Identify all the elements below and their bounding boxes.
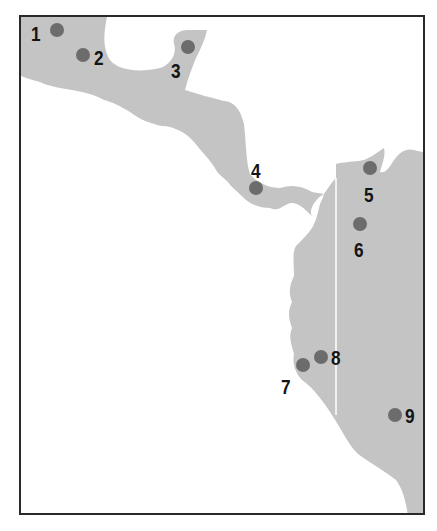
site-label-3: 3 xyxy=(171,60,181,81)
site-label-1: 1 xyxy=(31,23,41,44)
site-label-5: 5 xyxy=(364,184,374,205)
site-label-8: 8 xyxy=(331,347,341,368)
map-frame xyxy=(19,15,425,515)
site-marker-2 xyxy=(76,48,90,62)
site-label-9: 9 xyxy=(405,405,415,426)
site-label-6: 6 xyxy=(354,239,364,260)
site-marker-6 xyxy=(353,217,367,231)
site-marker-9 xyxy=(388,408,402,422)
site-label-4: 4 xyxy=(251,160,261,181)
land-central-america xyxy=(21,17,324,216)
map-landmass xyxy=(21,17,425,515)
site-label-7: 7 xyxy=(281,376,291,397)
site-marker-4 xyxy=(249,181,263,195)
site-marker-3 xyxy=(181,40,195,54)
site-marker-8 xyxy=(314,350,328,364)
site-marker-7 xyxy=(296,358,310,372)
site-marker-5 xyxy=(363,161,377,175)
site-label-2: 2 xyxy=(94,47,104,68)
site-marker-1 xyxy=(50,23,64,37)
